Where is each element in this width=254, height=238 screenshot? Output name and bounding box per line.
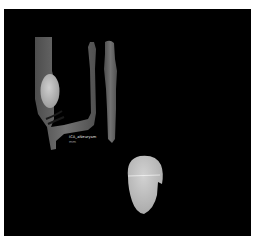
secondary-vessel	[104, 41, 117, 143]
annotation-sublabel: mm	[69, 140, 76, 144]
aneurysm-dome	[41, 74, 60, 108]
annotation-label: ICA_aNeurysm	[69, 135, 96, 139]
lower-aneurysm-sac	[128, 156, 163, 214]
3d-render-viewport[interactable]: ICA_aNeurysm mm	[4, 9, 251, 236]
vessel-render	[4, 9, 251, 236]
